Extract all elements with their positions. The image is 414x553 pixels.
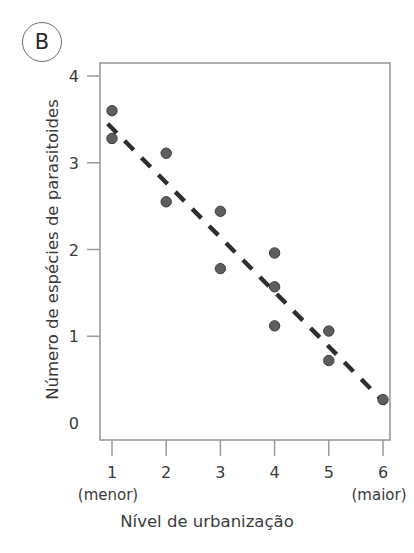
data-point-8	[269, 321, 279, 331]
data-point-1	[107, 133, 117, 143]
figure-panel-b: B Número de espécies de parasitoides Nív…	[0, 0, 414, 553]
x-axis-ticks: 123456	[107, 440, 388, 482]
x-axis-end-annotations: (menor)(maior)	[78, 486, 407, 504]
data-point-0	[107, 106, 117, 116]
data-point-7	[269, 282, 279, 292]
data-point-3	[161, 197, 171, 207]
data-point-2	[161, 148, 171, 158]
x-tick-label-2: 2	[161, 463, 171, 482]
x-tick-label-5: 5	[324, 463, 334, 482]
data-point-11	[378, 394, 388, 404]
x-tick-label-4: 4	[270, 463, 280, 482]
y-tick-label-3: 3	[69, 154, 79, 173]
y-tick-label-4: 4	[69, 67, 79, 86]
data-points	[107, 106, 388, 405]
x-axis-annotation-right: (maior)	[351, 486, 406, 504]
x-tick-label-3: 3	[215, 463, 225, 482]
data-point-6	[269, 248, 279, 258]
y-tick-label-1: 1	[69, 327, 79, 346]
y-tick-label-2: 2	[69, 241, 79, 260]
x-tick-label-1: 1	[107, 463, 117, 482]
data-point-10	[324, 355, 334, 365]
data-point-9	[324, 326, 334, 336]
y-axis-ticks: 01234	[69, 67, 100, 433]
data-point-4	[215, 206, 225, 216]
scatter-plot: 01234 123456 (menor)(maior)	[0, 0, 414, 553]
x-tick-label-6: 6	[378, 463, 388, 482]
x-axis-annotation-left: (menor)	[78, 486, 138, 504]
plot-frame	[100, 63, 390, 440]
trendline-dashed	[108, 124, 386, 404]
data-point-5	[215, 263, 225, 273]
y-tick-label-0: 0	[69, 414, 79, 433]
